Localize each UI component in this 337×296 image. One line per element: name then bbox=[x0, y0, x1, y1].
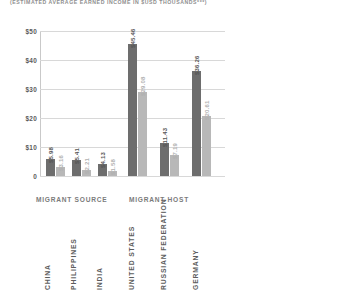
bar-group: $4.13$1.58 bbox=[98, 31, 117, 176]
y-axis-tick-label: 0 bbox=[33, 173, 37, 180]
country-label: GERMANY bbox=[192, 249, 199, 290]
y-axis-tick-label: $20 bbox=[25, 115, 37, 122]
gridline bbox=[40, 176, 225, 177]
y-axis-tick-label: $30 bbox=[25, 86, 37, 93]
country-label: UNITED STATES bbox=[128, 226, 135, 290]
bar-group: $36.26$20.61 bbox=[192, 31, 211, 176]
bar-value-label: $20.61 bbox=[204, 101, 210, 121]
bar-value-label: $5.98 bbox=[48, 147, 54, 163]
bar-group: $5.98$3.16 bbox=[46, 31, 65, 176]
bar-value-label: $45.46 bbox=[130, 29, 136, 49]
country-label: RUSSIAN FEDERATION bbox=[160, 199, 167, 290]
bar-secondary bbox=[202, 116, 211, 176]
bar-series-container: $5.98$3.16$5.41$2.21$4.13$1.58$45.46$29.… bbox=[40, 31, 225, 176]
bar-primary bbox=[192, 71, 201, 176]
bar-group: $11.43$7.19 bbox=[160, 31, 179, 176]
y-axis-tick-label: $40 bbox=[25, 57, 37, 64]
bar-value-label: $3.16 bbox=[58, 155, 64, 171]
bar-value-label: $2.21 bbox=[84, 158, 90, 174]
country-label: CHINA bbox=[44, 264, 51, 290]
chart-subtitle: (ESTIMATED AVERAGE EARNED INCOME IN $USD… bbox=[10, 0, 207, 5]
bar-value-label: $36.26 bbox=[194, 55, 200, 75]
y-axis-tick-label: $50 bbox=[25, 28, 37, 35]
bar-value-label: $11.43 bbox=[162, 128, 168, 147]
bar-secondary bbox=[138, 92, 147, 176]
bar-value-label: $4.13 bbox=[100, 152, 106, 168]
group-label: MIGRANT HOST bbox=[129, 196, 189, 203]
bar-value-label: $5.41 bbox=[74, 148, 80, 164]
y-axis-tick-label: $10 bbox=[25, 144, 37, 151]
bar-primary bbox=[160, 143, 169, 176]
bar-group: $45.46$29.08 bbox=[128, 31, 147, 176]
country-label: INDIA bbox=[96, 267, 103, 290]
bar-value-label: $1.58 bbox=[110, 159, 116, 175]
plot-area: 0$10$20$30$40$50 $5.98$3.16$5.41$2.21$4.… bbox=[40, 31, 225, 176]
bar-value-label: $7.19 bbox=[172, 143, 178, 159]
bar-value-label: $29.08 bbox=[140, 76, 146, 96]
bar-group: $5.41$2.21 bbox=[72, 31, 91, 176]
country-label: PHILIPPINES bbox=[70, 238, 77, 290]
bar-primary bbox=[128, 44, 137, 176]
group-label: MIGRANT SOURCE bbox=[36, 196, 107, 203]
